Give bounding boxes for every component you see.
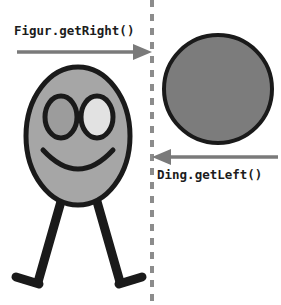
- right-leg: [96, 198, 120, 282]
- figure-head: [26, 67, 130, 205]
- stick-figure-legs: [16, 198, 142, 284]
- label-figur-get-right: Figur.getRight(): [14, 25, 134, 38]
- arrow-get-left: [152, 149, 278, 165]
- left-leg: [38, 198, 62, 282]
- arrow-get-left-head: [152, 149, 171, 165]
- right-eye: [81, 96, 113, 138]
- circle-ding: [164, 35, 272, 143]
- diagram-graphics: [0, 0, 281, 305]
- left-eye: [45, 96, 77, 138]
- arrow-get-right: [17, 44, 152, 60]
- diagram-canvas: Figur.getRight() Ding.getLeft(): [0, 0, 281, 305]
- arrow-get-right-head: [133, 44, 152, 60]
- label-ding-get-left: Ding.getLeft(): [157, 169, 262, 182]
